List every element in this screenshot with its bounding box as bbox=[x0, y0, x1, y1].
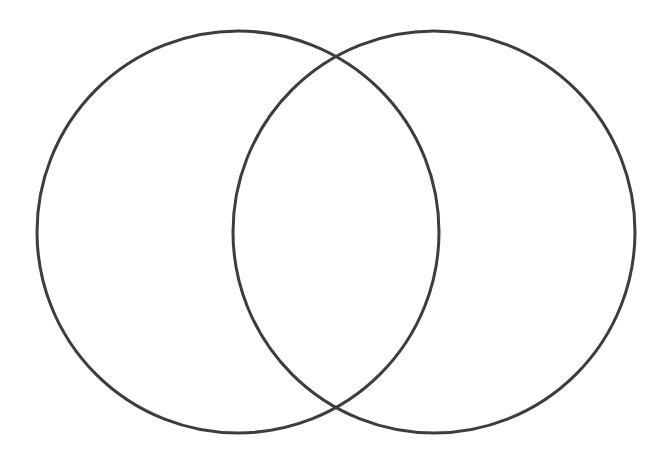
diagram-background bbox=[0, 0, 670, 467]
venn-diagram-svg bbox=[0, 0, 670, 467]
venn-diagram-canvas bbox=[0, 0, 670, 467]
